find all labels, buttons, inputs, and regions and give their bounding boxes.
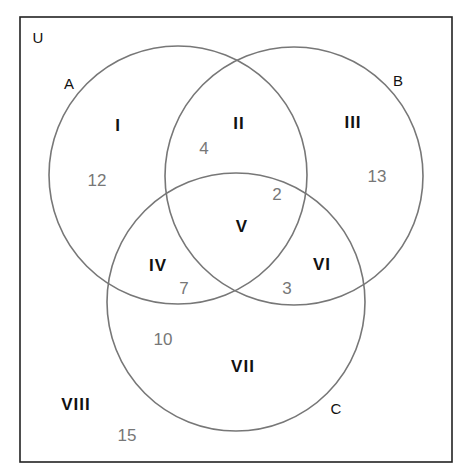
region-label-viii: VIII	[61, 396, 91, 413]
region-count-iii: 13	[368, 168, 387, 185]
region-label-ii: II	[233, 115, 244, 132]
region-label-iii: III	[344, 114, 361, 131]
region-count-i: 12	[88, 172, 107, 189]
set-label-c: C	[331, 401, 342, 416]
region-label-vii: VII	[231, 358, 255, 375]
region-count-v: 2	[272, 186, 281, 203]
set-label-b: B	[393, 73, 403, 88]
region-count-vii: 10	[154, 331, 173, 348]
region-count-iv: 7	[179, 280, 188, 297]
region-count-ii: 4	[199, 140, 208, 157]
circle-c	[107, 173, 365, 431]
region-label-vi: VI	[313, 256, 331, 273]
region-label-v: V	[236, 218, 248, 235]
set-label-a: A	[64, 76, 74, 91]
region-count-vi: 3	[282, 280, 291, 297]
universe-label: U	[33, 30, 44, 45]
region-label-i: I	[115, 117, 121, 134]
region-count-viii: 15	[118, 427, 137, 444]
region-label-iv: IV	[149, 257, 167, 274]
